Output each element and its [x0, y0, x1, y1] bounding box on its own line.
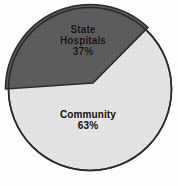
pie-label-state-hospitals-line2: Hospitals: [38, 35, 128, 46]
pie-label-community: Community 63%: [43, 109, 133, 131]
pie-label-state-hospitals-line1: State: [38, 24, 128, 35]
pie-value-community: 63%: [43, 120, 133, 131]
pie-label-state-hospitals: State Hospitals 37%: [38, 24, 128, 57]
pie-label-community-line1: Community: [43, 109, 133, 120]
pie-value-state-hospitals: 37%: [38, 46, 128, 57]
pie-chart-figure: State Hospitals 37% Community 63%: [0, 0, 178, 186]
